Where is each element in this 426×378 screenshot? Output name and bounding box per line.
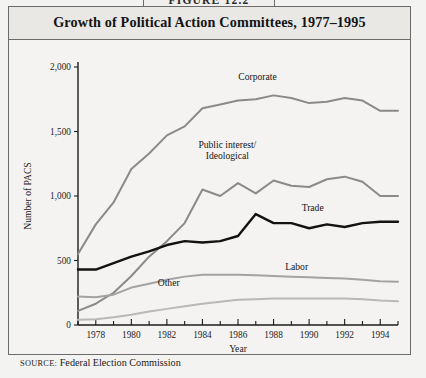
chart-panel: 05001,0001,5002,000197819801982198419861… (8, 40, 411, 355)
figure-title-band: Growth of Political Action Committees, 1… (8, 6, 411, 40)
y-tick-label: 0 (66, 320, 71, 330)
series-line-other (78, 299, 398, 320)
y-tick-label: 2,000 (50, 62, 71, 72)
series-label-trade: Trade (302, 202, 324, 213)
series-line-labor (78, 275, 398, 298)
source-text: Federal Election Commission (57, 357, 181, 368)
x-tick-label: 1986 (229, 330, 248, 340)
series-label-public: Public interest/ (198, 139, 256, 150)
pac-growth-line-chart: 05001,0001,5002,000197819801982198419861… (9, 40, 410, 353)
y-axis-title: Number of PACS (22, 162, 33, 229)
x-tick-label: 1978 (86, 330, 105, 340)
y-tick-label: 500 (57, 256, 71, 266)
source-note: SOURCE: Federal Election Commission (20, 357, 181, 368)
x-tick-label: 1990 (300, 330, 319, 340)
series-label-corporate: Corporate (238, 71, 276, 82)
series-labels-layer: CorporatePublic interest/IdeologicalTrad… (158, 71, 324, 288)
x-tick-label: 1984 (193, 330, 212, 340)
x-axis-title: Year (229, 343, 247, 353)
y-tick-label: 1,000 (50, 191, 71, 201)
x-tick-label: 1988 (264, 330, 283, 340)
y-tick-label: 1,500 (50, 127, 71, 137)
series-label-labor: Labor (285, 261, 309, 272)
figure-container: FIGURE 12.2 Growth of Political Action C… (0, 0, 426, 378)
x-tick-label: 1982 (158, 330, 177, 340)
series-label-other: Other (158, 277, 181, 288)
x-tick-label: 1994 (371, 330, 390, 340)
x-tick-label: 1980 (122, 330, 141, 340)
source-label: SOURCE: (20, 359, 57, 368)
series-line-trade (78, 214, 398, 269)
series-line-corporate (78, 95, 398, 254)
x-tick-label: 1992 (335, 330, 354, 340)
page-title: Growth of Political Action Committees, 1… (9, 14, 410, 31)
series-layer (78, 95, 398, 319)
series-label-public: Ideological (206, 150, 249, 161)
